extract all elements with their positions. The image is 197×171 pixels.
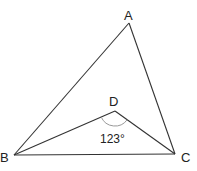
label-a: A [124, 8, 133, 23]
label-d: D [109, 94, 118, 109]
segment-bc [14, 154, 175, 155]
angle-label: 123° [100, 132, 125, 146]
diagram-svg: A B C D 123° [0, 0, 197, 171]
label-b: B [0, 150, 9, 165]
label-c: C [181, 150, 190, 165]
segment-ac [129, 23, 175, 154]
geometry-diagram: A B C D 123° [0, 0, 197, 171]
angle-arc-d [101, 117, 127, 126]
